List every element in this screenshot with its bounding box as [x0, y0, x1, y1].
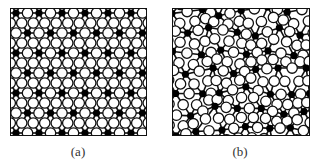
- lattice-drawing-ordered: [11, 9, 147, 136]
- caption-a: (a): [58, 144, 98, 160]
- lattice-drawing-disordered: [173, 9, 310, 136]
- caption-b: (b): [220, 144, 260, 160]
- panel-a-crystalline-network: [10, 8, 147, 136]
- panel-b-amorphous-network: [172, 8, 310, 136]
